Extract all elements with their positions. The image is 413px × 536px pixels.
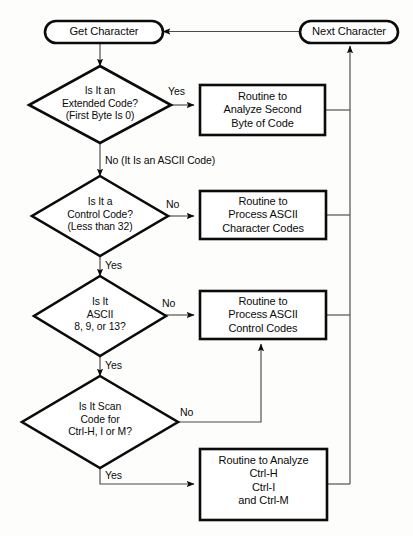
edge-label-scan-yes: Yes	[105, 470, 122, 482]
edge-label-ascii-yes: Yes	[105, 360, 122, 372]
node-analyze-ctrl-keys	[200, 449, 327, 520]
node-is-control-code	[32, 176, 168, 256]
node-is-ascii-8-9-13	[34, 276, 166, 356]
edge-label-extended-no: No (It Is an ASCII Code)	[105, 155, 215, 167]
node-process-ascii-character	[200, 191, 326, 239]
node-analyze-second-byte	[200, 85, 325, 135]
edge-label-ascii-no: No	[162, 298, 175, 310]
node-next-character	[300, 21, 398, 43]
node-process-ascii-control	[200, 291, 326, 339]
flowchart-canvas: Get Character Next Character Is It an Ex…	[0, 0, 413, 536]
node-is-scan-code	[22, 376, 178, 468]
node-get-character	[45, 21, 163, 43]
edge-label-extended-yes: Yes	[168, 86, 185, 98]
node-is-extended-code	[29, 66, 171, 143]
flowchart-svg	[0, 0, 413, 536]
edge-label-control-no: No	[166, 199, 179, 211]
edge-label-control-yes: Yes	[105, 260, 122, 272]
edge-label-scan-no: No	[180, 407, 193, 419]
